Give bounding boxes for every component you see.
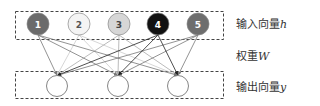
output-node-2	[108, 76, 129, 97]
input-node-3: 3	[108, 13, 130, 35]
output-nodes	[47, 76, 189, 97]
edge-2-to-1	[57, 35, 79, 75]
output-vector-symbol: y	[280, 81, 286, 94]
input-vector-label: 输入向量h	[236, 15, 287, 31]
svg-text:5: 5	[195, 20, 201, 30]
input-node-5: 5	[187, 13, 209, 35]
weights-label: 权重W	[236, 47, 269, 63]
weights-text: 权重	[236, 50, 258, 63]
input-node-2: 2	[68, 13, 90, 35]
svg-text:2: 2	[76, 20, 82, 30]
edge-5-to-2	[119, 35, 198, 75]
input-vector-text: 输入向量	[236, 18, 280, 31]
svg-text:3: 3	[116, 20, 122, 30]
svg-text:4: 4	[155, 20, 161, 30]
output-vector-label: 输出向量y	[236, 78, 286, 94]
edge-4-to-1	[58, 35, 158, 75]
weights-symbol: W	[258, 50, 269, 63]
input-node-4: 4	[147, 13, 169, 35]
edge-1-to-2	[38, 35, 117, 75]
output-node-3	[168, 76, 189, 97]
edge-4-to-2	[119, 35, 158, 75]
edge-3-to-1	[58, 35, 119, 75]
edge-5-to-3	[178, 35, 198, 75]
edge-3-to-2	[118, 35, 119, 75]
input-nodes: 12345	[27, 13, 209, 35]
input-vector-symbol: h	[280, 18, 287, 31]
edge-2-to-2	[79, 35, 117, 75]
output-vector-text: 输出向量	[236, 81, 280, 94]
edge-1-to-1	[38, 35, 57, 75]
weight-edges	[38, 35, 198, 75]
input-node-1: 1	[27, 13, 49, 35]
output-node-1	[47, 76, 68, 97]
svg-text:1: 1	[35, 20, 41, 30]
